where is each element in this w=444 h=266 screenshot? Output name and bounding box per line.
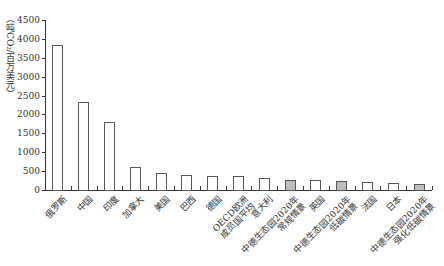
x-tick <box>122 186 123 190</box>
x-tick <box>174 186 175 190</box>
y-tick-label: 2500 <box>10 91 40 101</box>
y-tick-label: 2000 <box>10 109 40 119</box>
x-tick-label: 俄罗斯 <box>43 194 69 220</box>
x-tick <box>97 186 98 190</box>
x-tick <box>355 186 356 190</box>
bar <box>156 173 167 191</box>
y-tick <box>42 114 46 115</box>
y-tick <box>42 190 46 191</box>
x-tick <box>329 186 330 190</box>
x-tick <box>148 186 149 190</box>
x-tick-label: 德国 <box>204 194 224 214</box>
x-tick-label: 中国 <box>75 194 95 214</box>
x-tick <box>303 186 304 190</box>
y-tick-label: 4500 <box>10 15 40 25</box>
y-tick <box>42 20 46 21</box>
bar <box>52 45 63 191</box>
x-tick-label: 加拿大 <box>120 194 146 220</box>
y-tick-label: 4000 <box>10 34 40 44</box>
y-tick <box>42 96 46 97</box>
y-tick-label: 0 <box>10 185 40 195</box>
x-tick-label: 美国 <box>152 194 172 214</box>
x-tick-label: 中德生态园2020年 强化低碳情景 <box>369 194 438 263</box>
y-tick <box>42 77 46 78</box>
x-tick-label: 法国 <box>359 194 379 214</box>
y-tick <box>42 39 46 40</box>
y-axis <box>45 20 46 191</box>
y-tick <box>42 58 46 59</box>
x-tick <box>251 186 252 190</box>
carbon-intensity-bar-chart: （吨CO₂/百万美元） 0500100015002000250030003500… <box>0 0 444 266</box>
y-tick-label: 500 <box>10 166 40 176</box>
y-tick-label: 3500 <box>10 53 40 63</box>
bar <box>285 180 296 191</box>
bar <box>207 176 218 191</box>
x-tick <box>277 186 278 190</box>
bar <box>130 167 141 191</box>
y-tick-label: 3000 <box>10 72 40 82</box>
y-tick <box>42 171 46 172</box>
bar <box>388 183 399 191</box>
x-tick <box>406 186 407 190</box>
x-tick <box>71 186 72 190</box>
x-tick <box>380 186 381 190</box>
y-tick-label: 1000 <box>10 147 40 157</box>
x-tick-label: 巴西 <box>178 194 198 214</box>
x-tick <box>226 186 227 190</box>
y-tick <box>42 133 46 134</box>
bar <box>414 184 425 191</box>
x-tick <box>200 186 201 190</box>
bar <box>181 175 192 191</box>
y-tick <box>42 152 46 153</box>
bar <box>336 181 347 191</box>
x-tick-label: 英国 <box>307 194 327 214</box>
bar <box>362 182 373 191</box>
bar <box>78 102 89 191</box>
x-tick <box>432 186 433 190</box>
y-tick-label: 1500 <box>10 128 40 138</box>
bar <box>259 178 270 191</box>
bar <box>233 176 244 191</box>
x-tick-label: 印度 <box>101 194 121 214</box>
bar <box>310 180 321 191</box>
x-tick-label: 日本 <box>385 194 405 214</box>
bar <box>104 122 115 191</box>
